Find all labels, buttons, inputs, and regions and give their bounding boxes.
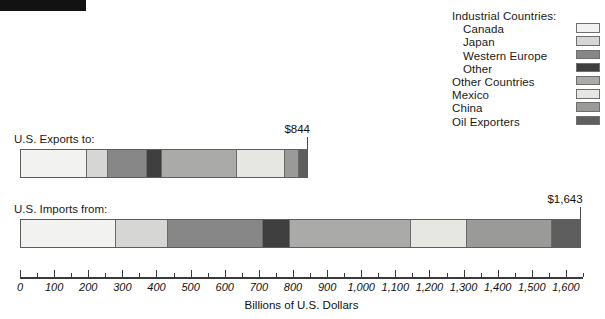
x-axis-tick — [105, 273, 106, 277]
x-axis-tick-label: 800 — [284, 281, 302, 293]
x-axis-tick — [583, 273, 584, 277]
bar-segment-oil-exporters[interactable] — [299, 150, 307, 177]
bar-segment-china[interactable] — [467, 220, 552, 247]
x-axis-title: Billions of U.S. Dollars — [245, 299, 359, 311]
x-axis-tick — [447, 273, 448, 277]
x-axis-tick-label: 100 — [45, 281, 63, 293]
bar-segment-canada[interactable] — [21, 220, 116, 247]
x-axis-tick — [378, 273, 379, 277]
x-axis-tick-label: 400 — [147, 281, 165, 293]
x-axis-tick-label: 1,200 — [416, 281, 444, 293]
x-axis-tick — [361, 270, 362, 277]
x-axis-tick — [37, 273, 38, 277]
x-axis-tick — [259, 270, 260, 277]
plot-area: U.S. Exports to:$844U.S. Imports from:$1… — [0, 0, 605, 319]
x-axis-tick — [71, 273, 72, 277]
bar-segment-mexico[interactable] — [411, 220, 467, 247]
x-axis-tick-label: 900 — [318, 281, 336, 293]
x-axis-tick — [225, 270, 226, 277]
x-axis-line — [20, 277, 583, 279]
bar-segment-other[interactable] — [263, 220, 290, 247]
x-axis-tick — [310, 273, 311, 277]
bar-segment-mexico[interactable] — [237, 150, 285, 177]
x-axis-tick-label: 500 — [181, 281, 199, 293]
x-axis-tick-label: 1,300 — [450, 281, 478, 293]
x-axis-tick-label: 600 — [216, 281, 234, 293]
x-axis-tick-label: 1,000 — [347, 281, 375, 293]
x-axis-tick — [549, 273, 550, 277]
series-label-exports: U.S. Exports to: — [14, 133, 95, 145]
x-axis-tick — [344, 273, 345, 277]
x-axis-tick-label: 300 — [113, 281, 131, 293]
x-axis-tick — [156, 270, 157, 277]
x-axis-tick — [122, 270, 123, 277]
x-axis-tick-label: 1,400 — [484, 281, 512, 293]
x-axis-tick — [208, 273, 209, 277]
x-axis-tick-label: 1,600 — [552, 281, 580, 293]
x-axis-tick — [88, 270, 89, 277]
x-axis-tick — [429, 270, 430, 277]
x-axis-tick — [515, 273, 516, 277]
x-axis-tick — [293, 270, 294, 277]
bar-segment-china[interactable] — [285, 150, 299, 177]
x-axis-tick-label: 700 — [250, 281, 268, 293]
value-leader-line — [307, 137, 308, 149]
x-axis-tick — [191, 270, 192, 277]
stacked-bar-imports — [20, 219, 581, 248]
bar-segment-western-europe[interactable] — [168, 220, 263, 247]
chart-canvas: Industrial Countries:CanadaJapanWestern … — [0, 0, 605, 319]
x-axis-tick — [327, 270, 328, 277]
x-axis-tick-label: 0 — [17, 281, 23, 293]
x-axis-tick — [395, 270, 396, 277]
bar-segment-oil-exporters[interactable] — [552, 220, 580, 247]
x-axis-tick-label: 200 — [79, 281, 97, 293]
bar-segment-other-countries[interactable] — [162, 150, 237, 177]
bar-segment-japan[interactable] — [116, 220, 169, 247]
x-axis-tick — [20, 270, 21, 277]
x-axis-tick-label: 1,100 — [382, 281, 410, 293]
x-axis-tick — [481, 273, 482, 277]
x-axis-tick-label: 1,500 — [518, 281, 546, 293]
bar-segment-japan[interactable] — [87, 150, 108, 177]
stacked-bar-exports — [20, 149, 308, 178]
series-label-imports: U.S. Imports from: — [14, 203, 107, 215]
x-axis-tick — [139, 273, 140, 277]
x-axis-tick — [276, 273, 277, 277]
bar-segment-other-countries[interactable] — [290, 220, 412, 247]
x-axis-tick — [242, 273, 243, 277]
x-axis-tick — [566, 270, 567, 277]
x-axis-tick — [498, 270, 499, 277]
total-value-label-exports: $844 — [284, 123, 310, 135]
x-axis-tick — [412, 273, 413, 277]
bar-segment-western-europe[interactable] — [108, 150, 146, 177]
bar-segment-canada[interactable] — [21, 150, 87, 177]
total-value-label-imports: $1,643 — [547, 193, 582, 205]
bar-segment-other[interactable] — [147, 150, 162, 177]
value-leader-line — [580, 207, 581, 219]
x-axis-tick — [464, 270, 465, 277]
x-axis-tick — [54, 270, 55, 277]
x-axis-tick — [174, 273, 175, 277]
x-axis-tick — [532, 270, 533, 277]
